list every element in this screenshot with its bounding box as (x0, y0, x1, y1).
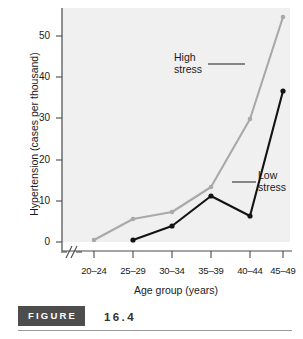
line-chart-svg (0, 0, 303, 300)
annotation-high-stress-line1: High (174, 52, 202, 64)
caption-divider (18, 330, 292, 331)
x-tick-label-20-24: 20–24 (74, 265, 114, 276)
x-tick-label-45-49: 45–49 (263, 265, 303, 276)
y-axis-title: Hypertension (cases per thousand) (28, 14, 40, 254)
x-axis-title: Age group (years) (60, 284, 292, 296)
x-tick-label-30-34: 30–34 (152, 265, 192, 276)
chart-canvas: 50 40 30 20 10 0 Hypertension (cases per… (0, 0, 303, 300)
x-axis-ticks (94, 251, 283, 258)
annotation-high-stress-line2: stress (174, 64, 202, 76)
annotation-low-stress: Low stress (258, 170, 286, 193)
x-tick-label-35-39: 35–39 (191, 265, 231, 276)
annotation-high-stress: High stress (174, 52, 202, 75)
annotation-low-stress-line1: Low (258, 170, 286, 182)
figure-caption: FIGURE 16.4 (0, 300, 303, 339)
plot-background (62, 8, 290, 242)
figure-container: 50 40 30 20 10 0 Hypertension (cases per… (0, 0, 303, 339)
figure-badge: FIGURE (18, 306, 85, 326)
x-tick-label-25-29: 25–29 (113, 265, 153, 276)
annotation-low-stress-line2: stress (258, 182, 286, 194)
axis-break-icon (61, 246, 82, 258)
figure-number: 16.4 (104, 311, 136, 323)
y-axis-ticks (56, 36, 62, 242)
